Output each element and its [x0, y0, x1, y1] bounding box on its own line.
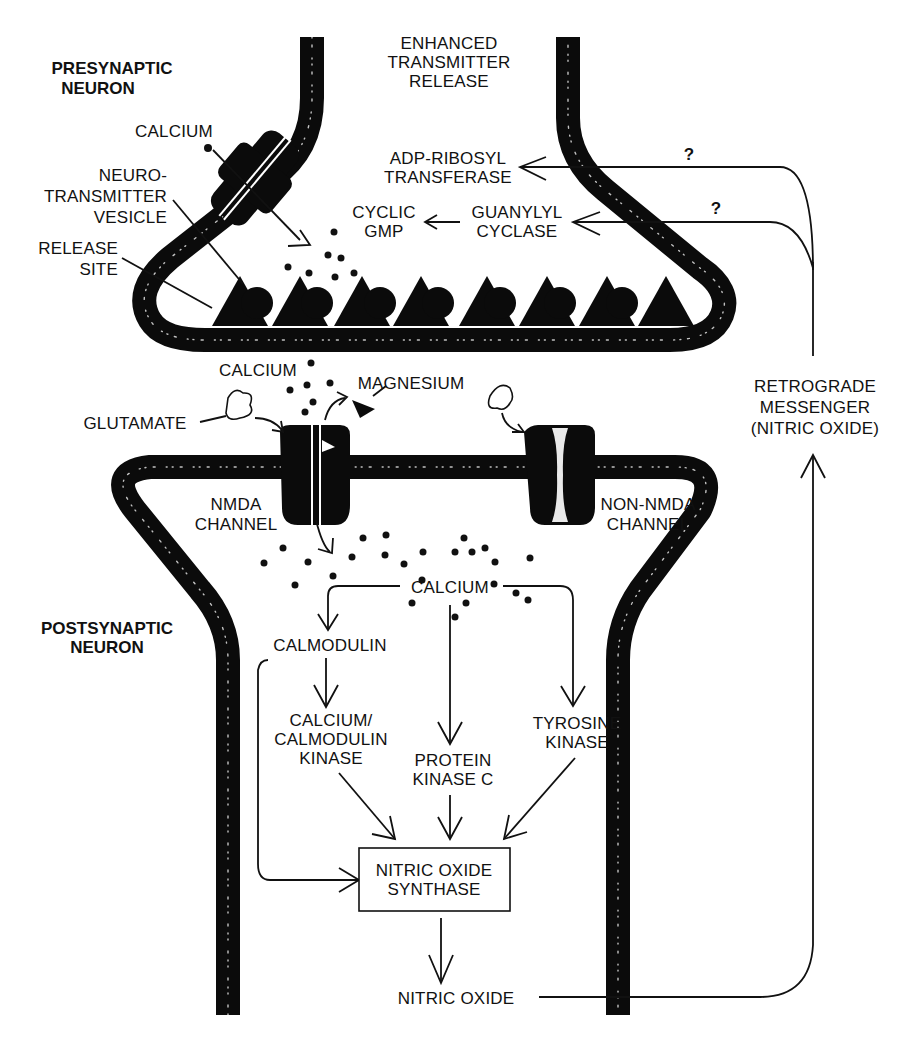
- nmda-label: NMDA: [211, 495, 262, 514]
- adp-ribosyl-label-2: TRANSFERASE: [384, 168, 512, 187]
- camk-label: CALCIUM/: [290, 711, 373, 730]
- retrograde-label-2: MESSENGER: [760, 398, 870, 417]
- cyclic-gmp-label-2: GMP: [364, 222, 403, 241]
- vesicle-label-2: TRANSMITTER: [44, 187, 167, 206]
- postsynaptic-calcium-dots: [261, 532, 534, 621]
- camk-label-3: KINASE: [299, 749, 363, 768]
- retrograde-label: RETROGRADE: [754, 377, 876, 396]
- vesicle-label: NEURO-: [99, 166, 167, 185]
- glutamate-label: GLUTAMATE: [83, 414, 186, 433]
- presynaptic-calcium-label: CALCIUM: [135, 122, 213, 141]
- nmda-channel: [280, 392, 350, 553]
- non-nmda-label: NON-NMDA: [600, 495, 696, 514]
- enhanced-release-label-2: TRANSMITTER: [387, 53, 510, 72]
- pathway-arrows: [258, 157, 825, 997]
- glutamate-leader-line: [200, 416, 226, 422]
- glutamate-binding-line-non-nmda: [502, 413, 522, 432]
- presynaptic-label-2: NEURON: [61, 79, 135, 98]
- diagram-svg: PRESYNAPTIC NEURON ENHANCED TRANSMITTER …: [0, 0, 911, 1038]
- guanylyl-label-2: CYCLASE: [477, 222, 558, 241]
- cleft-calcium-label: CALCIUM: [219, 361, 297, 380]
- non-nmda-channel: [524, 425, 595, 525]
- guanylyl-label: GUANYLYL: [471, 203, 562, 222]
- release-site-label-2: SITE: [79, 260, 118, 279]
- tyrosine-kinase-label: TYROSINE: [533, 714, 622, 733]
- glutamate-molecule-icon-2: [489, 385, 513, 409]
- question-mark-guanylyl: ?: [711, 199, 721, 218]
- magnesium-ion-icon: [352, 400, 375, 418]
- postsynaptic-membrane: [123, 467, 706, 1015]
- glutamate-binding-line-nmda: [255, 418, 282, 430]
- calmodulin-label: CALMODULIN: [273, 636, 386, 655]
- arrow-tyrosine-to-nos: [504, 758, 575, 839]
- camk-label-2: CALMODULIN: [274, 730, 387, 749]
- release-site-label: RELEASE: [38, 239, 118, 258]
- adp-ribosyl-label: ADP-RIBOSYL: [390, 149, 507, 168]
- vesicle-label-3: VESICLE: [94, 208, 167, 227]
- nitric-oxide-label: NITRIC OXIDE: [398, 989, 515, 1008]
- nmda-label-2: CHANNEL: [195, 515, 278, 534]
- ltp-nitric-oxide-diagram: PRESYNAPTIC NEURON ENHANCED TRANSMITTER …: [0, 0, 911, 1038]
- pkc-label-2: KINASE C: [413, 770, 494, 789]
- postsynaptic-label: POSTSYNAPTIC: [41, 619, 173, 638]
- presynaptic-label: PRESYNAPTIC: [52, 59, 173, 78]
- glutamate-molecule-icon: [226, 390, 252, 419]
- cyclic-gmp-label: CYCLIC: [352, 203, 416, 222]
- arrow-calmodulin-to-nos: [258, 660, 359, 880]
- enhanced-release-label: ENHANCED: [400, 34, 497, 53]
- nos-label-2: SYNTHASE: [387, 880, 480, 899]
- pathway-calcium-label: CALCIUM: [411, 578, 489, 597]
- question-mark-adp: ?: [684, 145, 694, 164]
- tyrosine-kinase-label-2: KINASE: [545, 733, 609, 752]
- retrograde-label-3: (NITRIC OXIDE): [751, 419, 879, 438]
- nos-label: NITRIC OXIDE: [376, 861, 493, 880]
- arrow-camk-to-nos: [339, 773, 395, 839]
- pkc-label: PROTEIN: [415, 751, 492, 770]
- arrow-calcium-to-calmodulin: [328, 586, 400, 630]
- non-nmda-label-2: CHANNEL: [607, 515, 690, 534]
- magnesium-label: MAGNESIUM: [358, 374, 465, 393]
- enhanced-release-label-3: RELEASE: [409, 72, 489, 91]
- postsynaptic-label-2: NEURON: [70, 638, 144, 657]
